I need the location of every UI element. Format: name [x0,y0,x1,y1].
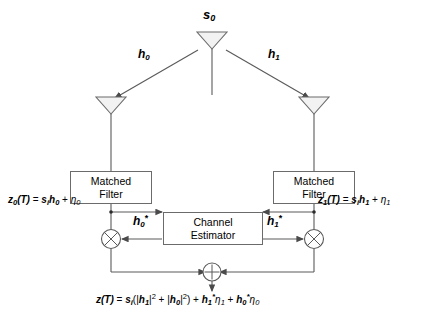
diagram-wiring [0,0,428,314]
matched-filter-left-block[interactable]: Matched Filter [70,171,152,204]
channel-estimator-text: Channel Estimator [191,216,235,241]
rx-antenna-right-icon [299,97,329,171]
equation-z0: z0(T) = sih0 + η0 [8,194,80,207]
matched-filter-left-text: Matched Filter [91,175,131,200]
source-label: s0 [203,8,215,23]
conjugate-h0-label: h0* [133,214,148,229]
diagram-canvas: s0 h0 h1 h0* h1* Matched Filter Matched … [0,0,428,314]
channel-estimator-block[interactable]: Channel Estimator [163,212,263,245]
conjugate-h1-label: h1* [267,214,282,229]
tx-antenna-icon [197,32,227,95]
equation-output: z(T) = si(|h1|2 + |h0|2) + h1*η1 + h0*η0 [96,292,259,307]
channel-gain-h0-label: h0 [138,48,150,62]
summer-node [203,263,221,281]
multiplier-right-node [305,230,324,249]
path-h0-arrow [115,50,198,98]
multiplier-left-node [102,230,121,249]
channel-gain-h1-label: h1 [268,48,280,62]
rx-antenna-left-icon [96,97,126,171]
equation-z1: z1(T) = sih1 + η1 [318,194,390,207]
